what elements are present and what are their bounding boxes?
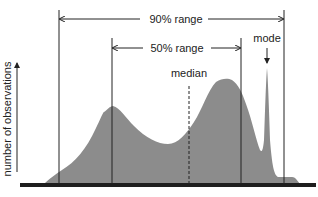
x-axis-baseline bbox=[20, 183, 316, 187]
range90-label: 90% range bbox=[149, 13, 202, 25]
distribution-diagram: 90% range 50% range median mode number o… bbox=[0, 0, 318, 197]
y-axis-label: number of observations bbox=[1, 61, 13, 176]
mode-label: mode bbox=[253, 32, 281, 44]
distribution-area bbox=[43, 68, 301, 185]
range50-label: 50% range bbox=[150, 42, 203, 54]
median-label: median bbox=[171, 67, 207, 79]
